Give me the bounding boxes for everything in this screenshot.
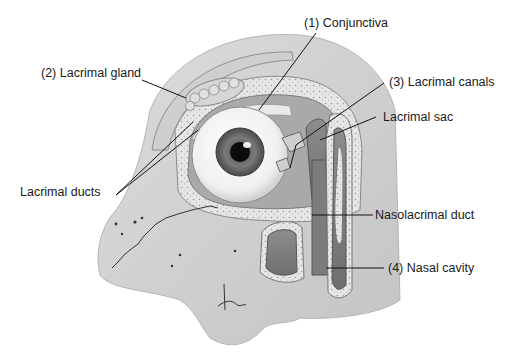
- label-lacrimal-sac: Lacrimal sac: [383, 111, 453, 124]
- label-nasal-cavity: (4) Nasal cavity: [388, 262, 474, 275]
- label-lacrimal-ducts: Lacrimal ducts: [20, 186, 101, 199]
- nasolacrimal-duct-shape: [312, 160, 328, 275]
- anatomy-illustration: [0, 0, 508, 364]
- label-lacrimal-gland: (2) Lacrimal gland: [41, 67, 141, 80]
- lacrimal-diagram: (1) Conjunctiva (2) Lacrimal gland (3) L…: [0, 0, 508, 364]
- label-nasolacrimal-duct: Nasolacrimal duct: [375, 209, 474, 222]
- label-lacrimal-canals: (3) Lacrimal canals: [389, 76, 495, 89]
- label-conjunctiva: (1) Conjunctiva: [304, 17, 388, 30]
